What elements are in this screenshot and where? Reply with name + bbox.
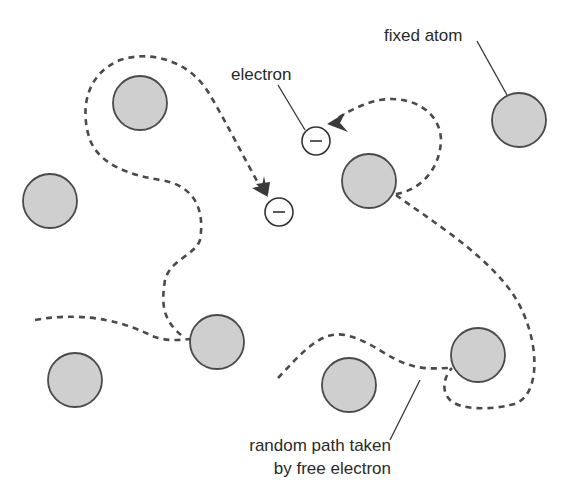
fixed-atom-label: fixed atom — [384, 26, 462, 45]
fixed-atom — [342, 154, 396, 208]
arrowhead-icon-electron-1-shape — [327, 113, 348, 132]
random-path-label-line1: random path taken — [249, 436, 391, 455]
arrowhead-icon-electron-2-shape — [252, 176, 268, 197]
atoms — [23, 76, 546, 412]
leader-line-random-path — [390, 380, 420, 440]
fixed-atom — [492, 93, 546, 147]
fixed-atom — [113, 76, 167, 130]
fixed-atom — [48, 353, 102, 407]
electron-label: electron — [231, 65, 291, 84]
free-electron-diagram: fixed atom electron random path taken by… — [0, 0, 569, 489]
path-segment-upper-left-loop — [85, 56, 262, 338]
electron-2 — [265, 198, 293, 226]
random-path-label-line2: by free electron — [274, 459, 391, 478]
path-segment-left-entry — [35, 317, 190, 340]
fixed-atom — [451, 328, 505, 382]
leader-line-fixed-atom — [477, 41, 507, 95]
fixed-atom — [322, 358, 376, 412]
fixed-atom — [23, 174, 77, 228]
electron-1 — [302, 127, 330, 155]
leader-line-electron — [278, 85, 305, 130]
fixed-atom — [190, 315, 244, 369]
